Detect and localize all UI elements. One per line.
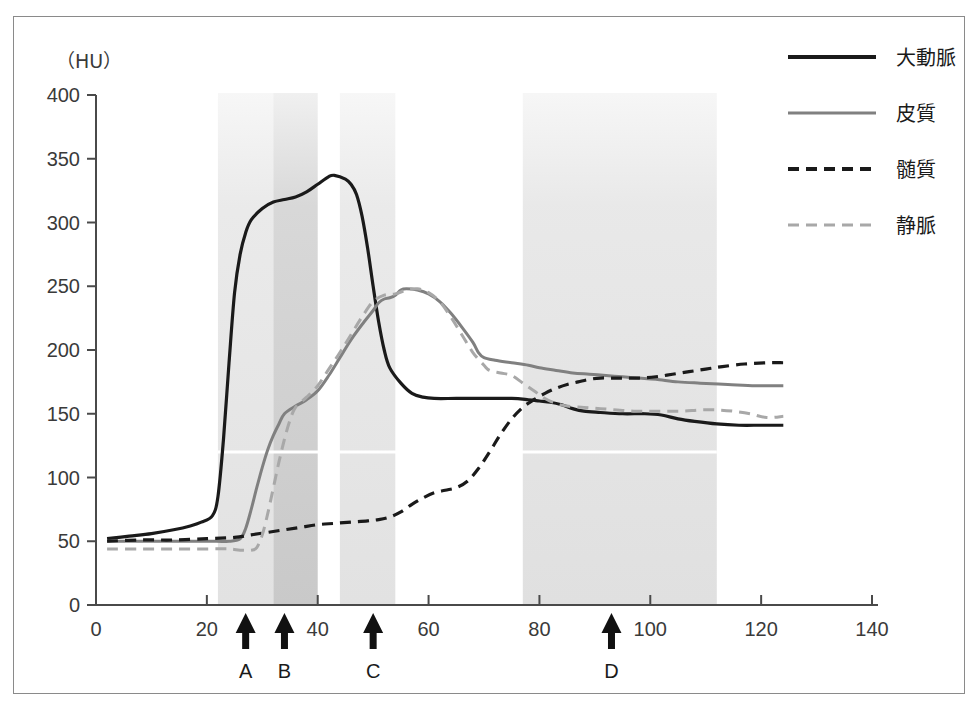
figure-root: 0501001502002503003504000204060801001201… bbox=[0, 0, 978, 710]
legend-label-静脈: 静脈 bbox=[896, 214, 936, 238]
y-axis-ticks: 050100150200250300350400 bbox=[47, 84, 96, 616]
y-tick-label: 250 bbox=[47, 275, 80, 297]
band-3 bbox=[340, 93, 395, 605]
y-tick-label: 350 bbox=[47, 148, 80, 170]
axes bbox=[96, 95, 878, 605]
marker-arrow-B bbox=[274, 613, 294, 649]
x-tick-label: 40 bbox=[307, 618, 329, 640]
x-tick-label: 140 bbox=[855, 618, 888, 640]
legend-label-皮質: 皮質 bbox=[896, 102, 936, 126]
legend-label-髄質: 髄質 bbox=[896, 158, 936, 182]
marker-arrow-D bbox=[601, 613, 621, 649]
band-4 bbox=[523, 93, 717, 605]
marker-arrow-C bbox=[363, 613, 383, 649]
y-tick-label: 150 bbox=[47, 403, 80, 425]
x-tick-label: 60 bbox=[417, 618, 439, 640]
legend-label-大動脈: 大動脈 bbox=[896, 46, 956, 70]
x-tick-label: 100 bbox=[634, 618, 667, 640]
marker-label-C: C bbox=[366, 660, 380, 682]
unit-label: （HU） bbox=[56, 50, 122, 72]
x-tick-label: 20 bbox=[196, 618, 218, 640]
y-tick-label: 200 bbox=[47, 339, 80, 361]
y-tick-label: 50 bbox=[58, 530, 80, 552]
line-chart: 0501001502002503003504000204060801001201… bbox=[0, 0, 978, 710]
y-tick-label: 0 bbox=[69, 594, 80, 616]
legend: 大動脈皮質髄質静脈 bbox=[788, 46, 956, 238]
y-tick-label: 400 bbox=[47, 84, 80, 106]
marker-label-A: A bbox=[239, 660, 253, 682]
x-tick-label: 120 bbox=[744, 618, 777, 640]
marker-arrow-A bbox=[236, 613, 256, 649]
y-tick-label: 300 bbox=[47, 212, 80, 234]
x-tick-label: 80 bbox=[528, 618, 550, 640]
plot-area: 0501001502002503003504000204060801001201… bbox=[0, 0, 978, 710]
marker-label-D: D bbox=[604, 660, 618, 682]
x-axis-ticks: 020406080100120140 bbox=[90, 595, 888, 640]
x-tick-label: 0 bbox=[90, 618, 101, 640]
y-tick-label: 100 bbox=[47, 467, 80, 489]
marker-label-B: B bbox=[278, 660, 291, 682]
